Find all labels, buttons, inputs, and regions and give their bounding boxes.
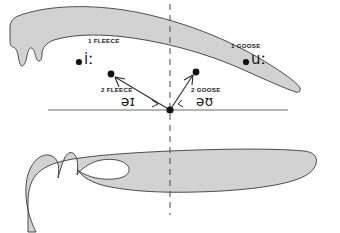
label-goose-1-tag: 1 GOOSE bbox=[231, 43, 261, 49]
dot-goose-1 bbox=[243, 59, 249, 65]
vowel-diagram-canvas: 1 FLEECE iː 1 GOOSE uː 2 FLEECE əɪ 2 GOO… bbox=[0, 0, 340, 233]
label-fleece-1-ipa: iː bbox=[84, 52, 94, 67]
diagram-svg bbox=[0, 0, 340, 233]
label-fleece-1-tag: 1 FLEECE bbox=[88, 38, 120, 44]
tongue-shape bbox=[26, 149, 317, 232]
origin-tick-right bbox=[178, 100, 183, 107]
dot-fleece-1 bbox=[76, 59, 82, 65]
dot-goose-2 bbox=[193, 69, 200, 76]
label-goose-2-ipa: əʊ bbox=[196, 95, 213, 109]
label-fleece-2-ipa: əɪ bbox=[121, 95, 135, 109]
origin-dot-schwa bbox=[166, 106, 173, 113]
arrow-to-goose-2 bbox=[170, 75, 193, 110]
label-goose-1-ipa: uː bbox=[251, 52, 266, 67]
dot-fleece-2 bbox=[108, 71, 115, 78]
